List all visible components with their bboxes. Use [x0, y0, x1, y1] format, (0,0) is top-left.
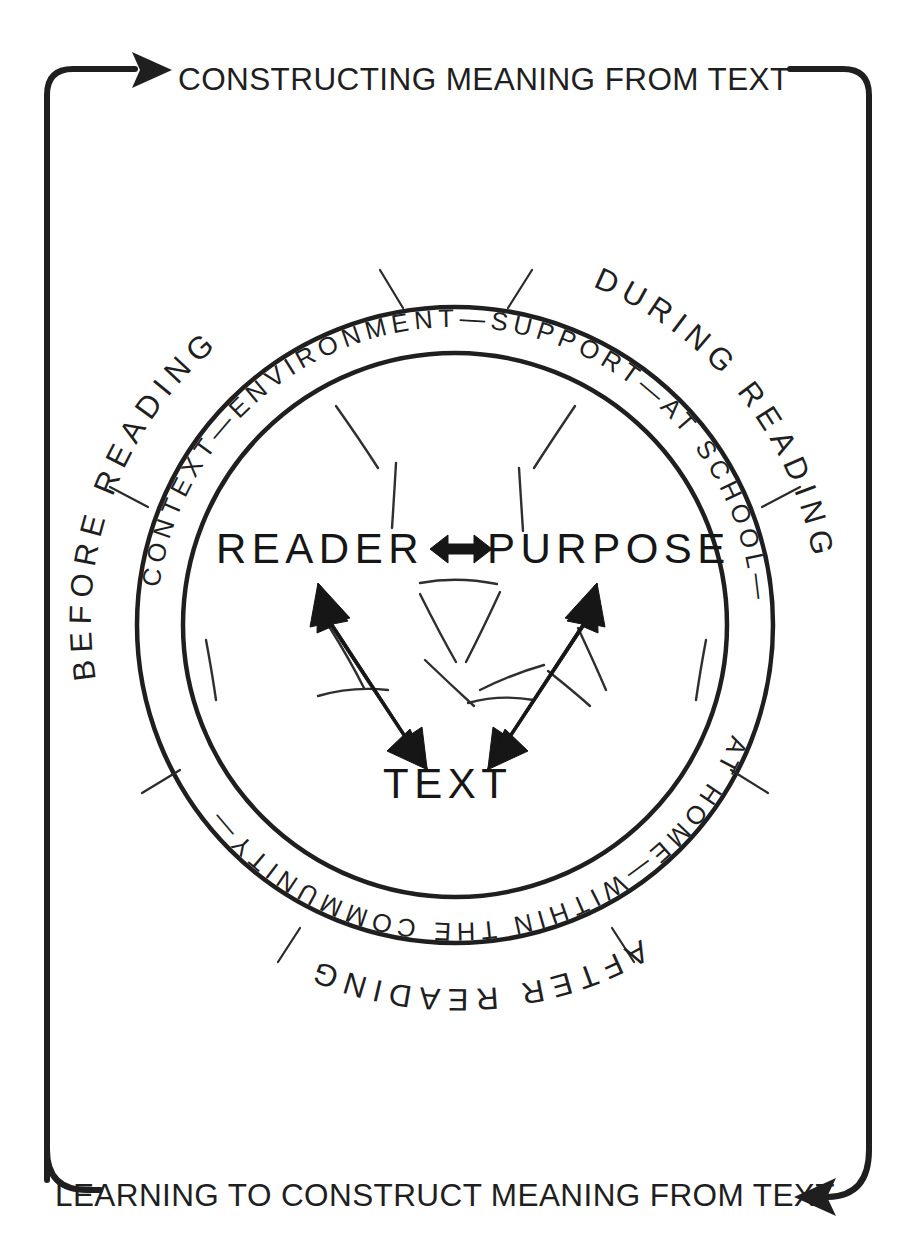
- purpose-text-double-arrow-icon: [487, 583, 605, 770]
- top-banner-label: CONSTRUCTING MEANING FROM TEXT: [178, 61, 790, 98]
- diagram-canvas: CONTEXT—ENVIRONMENT—SUPPORT—AT SCHOOL— A…: [0, 0, 914, 1260]
- core-label-purpose: PURPOSE: [487, 525, 731, 573]
- core-label-reader: READER: [216, 525, 424, 573]
- reader-text-double-arrow-icon: [310, 583, 428, 770]
- core-arrows-layer: [0, 0, 914, 1260]
- bottom-banner-label: LEARNING TO CONSTRUCT MEANING FROM TEXT: [55, 1177, 835, 1214]
- core-label-text: TEXT: [383, 760, 512, 808]
- reader-purpose-bidirectional-arrow-icon: [430, 529, 492, 569]
